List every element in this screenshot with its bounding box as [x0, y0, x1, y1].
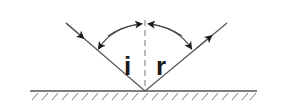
mirror-surface: [30, 91, 257, 100]
incident-ray: [66, 23, 145, 91]
incident-arrow-icon: [66, 23, 83, 38]
angle-r-arc: [149, 24, 191, 48]
reflected-arrow-icon: [196, 36, 211, 48]
angle-i-arc: [99, 24, 141, 48]
angle-r-label: r: [156, 51, 166, 81]
reflection-diagram: i r: [0, 0, 285, 112]
angle-i-label: i: [124, 51, 131, 81]
